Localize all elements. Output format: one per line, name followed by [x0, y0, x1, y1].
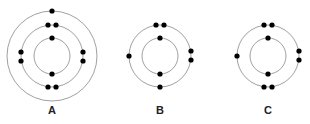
atom-b-shell-1	[142, 38, 178, 74]
atom-c-label: C	[264, 104, 272, 116]
atom-a-electrons	[18, 8, 85, 89]
atom-b-label: B	[156, 104, 164, 116]
atom-c-electrons	[234, 22, 301, 89]
atom-b-electrons	[126, 22, 193, 89]
atom-c-shell-1	[250, 38, 286, 74]
atom-c	[234, 22, 301, 89]
atom-a-shell-3	[7, 11, 97, 101]
atom-a-shell-2	[21, 25, 83, 87]
atom-a	[7, 8, 97, 101]
atom-a-shell-1	[34, 38, 70, 74]
atom-a-label: A	[48, 104, 56, 116]
atom-b-shell-2	[129, 25, 191, 87]
atom-c-shell-2	[237, 25, 299, 87]
atom-b	[126, 22, 193, 89]
